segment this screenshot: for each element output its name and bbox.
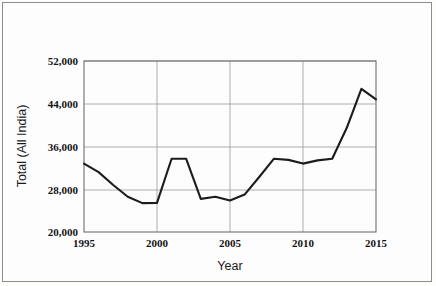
gridlines-vertical [157,61,303,232]
x-tick-2005: 2005 [219,237,242,249]
y-tick-52000: 52,000 [48,55,79,67]
x-tick-2010: 2010 [292,237,315,249]
line-chart: 52,000 44,000 36,000 28,000 20,000 1995 … [0,0,436,286]
x-axis-tick-labels: 1995 2000 2005 2010 2015 [73,237,388,249]
x-tick-2000: 2000 [146,237,169,249]
y-axis-title: Total (All India) [15,105,29,188]
x-axis-title: Year [217,259,242,273]
y-tick-36000: 36,000 [48,141,79,153]
y-tick-44000: 44,000 [48,98,79,110]
y-tick-28000: 28,000 [48,184,79,196]
x-tick-2015: 2015 [365,237,388,249]
y-axis-tick-labels: 52,000 44,000 36,000 28,000 20,000 [48,55,79,238]
x-tick-1995: 1995 [73,237,96,249]
chart-figure: 52,000 44,000 36,000 28,000 20,000 1995 … [0,0,436,286]
